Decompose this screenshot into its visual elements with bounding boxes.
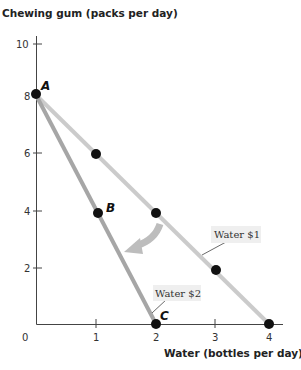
y-tick-10: 10 xyxy=(16,39,29,50)
x-tick-2: 2 xyxy=(153,332,159,343)
point-a xyxy=(31,89,41,99)
water1-leader-line xyxy=(202,242,226,255)
x-tick-4: 4 xyxy=(266,332,272,343)
point-c-label: C xyxy=(160,309,169,323)
y-axis-title: Chewing gum (packs per day) xyxy=(2,7,178,19)
point-b-label: B xyxy=(106,201,115,215)
y-tick-6: 6 xyxy=(24,148,30,159)
y-ticks xyxy=(33,44,42,268)
water1-label: Water $1 xyxy=(214,229,260,240)
point-water1-2-4 xyxy=(151,208,161,218)
x-tick-0: 0 xyxy=(22,332,28,343)
x-tick-1: 1 xyxy=(93,332,99,343)
rotation-arrow-icon xyxy=(124,224,160,254)
point-b xyxy=(93,208,103,218)
point-water1-1-6 xyxy=(91,149,101,159)
point-water1-4-0 xyxy=(264,319,274,329)
point-water1-3-2 xyxy=(211,265,221,275)
budget-line-chart: Chewing gum (packs per day) 10 8 6 4 2 0… xyxy=(0,0,301,370)
x-axis-title: Water (bottles per day) xyxy=(164,347,301,359)
y-tick-4: 4 xyxy=(24,206,30,217)
x-tick-3: 3 xyxy=(212,332,218,343)
y-tick-8: 8 xyxy=(24,91,30,102)
water2-label: Water $2 xyxy=(155,288,201,299)
point-a-label: A xyxy=(40,79,50,93)
y-tick-2: 2 xyxy=(24,263,30,274)
